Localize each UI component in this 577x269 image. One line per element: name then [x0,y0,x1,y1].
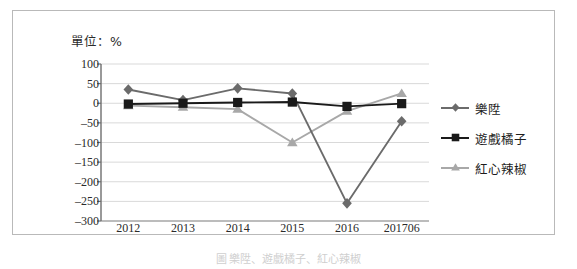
y-axis-tick-label: 50 [59,78,99,90]
data-point-marker [288,88,298,99]
y-axis-tick-label: –300 [59,215,99,227]
legend-diamond-icon [441,101,469,115]
legend-marker-glyph [451,133,460,142]
data-point-marker [397,99,406,108]
legend-label: 紅心辣椒 [475,159,527,178]
y-axis-tick-label: –50 [59,117,99,129]
y-axis-tick-label: –250 [59,195,99,207]
data-point-marker [124,99,133,108]
x-axis-tick-label: 2012 [116,221,140,236]
data-point-marker [178,99,187,108]
y-axis-tick-label: 0 [59,97,99,109]
y-axis-tick-labels: 100500–50–100–150–200–250–300 [59,11,99,236]
legend-triangle-icon [441,161,469,175]
chart-plot-area: 單位：% 100500–50–100–150–200–250–300 20122… [13,11,556,236]
y-axis-tick-label: –200 [59,176,99,188]
data-point-marker [124,84,134,95]
data-point-marker [233,83,243,94]
data-point-marker [287,137,298,146]
chart-legend: 樂陞遊戲橘子紅心辣椒 [441,93,553,183]
x-axis-tick-label: 2014 [226,221,250,236]
y-axis-tick-label: 100 [59,58,99,70]
series-line [128,102,401,106]
series-line [128,93,401,142]
data-point-marker [342,102,351,111]
legend-marker-glyph [451,103,460,112]
series-square [124,97,407,111]
legend-square-icon [441,131,469,145]
data-point-marker [233,98,242,107]
x-axis-tick-label: 2016 [335,221,359,236]
figure-frame: 單位：% 100500–50–100–150–200–250–300 20122… [12,10,555,235]
legend-item-3[interactable]: 紅心辣椒 [441,153,553,183]
x-axis-tick-label: 2015 [280,221,304,236]
figure-caption: 圖 樂陞、遊戲橘子、紅心辣椒 [0,250,577,266]
x-axis-tick-label: 201706 [384,221,420,236]
legend-label: 遊戲橘子 [475,129,527,148]
y-axis-tick-label: –100 [59,137,99,149]
legend-marker-glyph [451,163,460,172]
y-axis-tick-label: –150 [59,156,99,168]
data-point-marker [396,88,407,97]
legend-item-2[interactable]: 遊戲橘子 [441,123,553,153]
data-point-marker [288,97,297,106]
legend-label: 樂陞 [475,99,501,118]
legend-item-1[interactable]: 樂陞 [441,93,553,123]
x-axis-tick-label: 2013 [171,221,195,236]
